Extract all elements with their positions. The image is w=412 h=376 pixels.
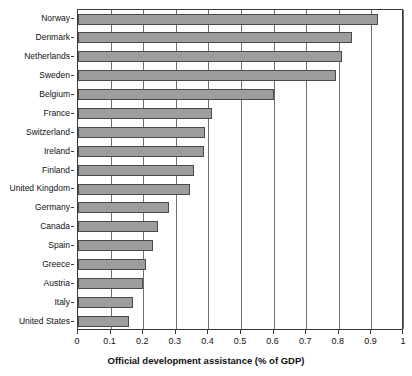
bars-layer (78, 10, 402, 329)
x-tick-label: 0.6 (266, 336, 279, 347)
category-label: Finland (0, 165, 70, 175)
bar (78, 108, 212, 119)
category-label: Ireland (0, 146, 70, 156)
x-tick-label: 0.4 (201, 336, 214, 347)
category-tick (71, 37, 74, 38)
bar (78, 165, 194, 176)
x-tick-label: 0.5 (234, 336, 247, 347)
x-tick-label: 0.2 (136, 336, 149, 347)
x-tick (402, 330, 403, 334)
x-tick (370, 330, 371, 334)
bar (78, 240, 153, 251)
category-tick (71, 94, 74, 95)
oda-bar-chart: NorwayDenmarkNetherlandsSwedenBelgiumFra… (0, 0, 412, 376)
plot-area (77, 9, 403, 330)
category-label: Italy (0, 297, 70, 307)
category-label: Spain (0, 240, 70, 250)
x-axis-ticks (77, 330, 403, 335)
x-tick (305, 330, 306, 334)
bar (78, 259, 146, 270)
category-label: Belgium (0, 89, 70, 99)
x-tick (77, 330, 78, 334)
x-axis-tick-labels: 00.10.20.30.40.50.60.70.80.91 (0, 336, 412, 350)
category-tick (71, 321, 74, 322)
category-label: Greece (0, 259, 70, 269)
category-tick (71, 170, 74, 171)
bar (78, 202, 169, 213)
bar (78, 14, 378, 25)
category-label: Norway (0, 13, 70, 23)
category-label: Austria (0, 278, 70, 288)
x-tick (175, 330, 176, 334)
category-tick (71, 207, 74, 208)
bar (78, 70, 336, 81)
x-tick (338, 330, 339, 334)
category-tick (71, 188, 74, 189)
category-tick (71, 56, 74, 57)
bar (78, 297, 133, 308)
bar (78, 89, 274, 100)
category-label: Germany (0, 202, 70, 212)
category-tick (71, 18, 74, 19)
x-tick-label: 0.8 (332, 336, 345, 347)
category-tick (71, 283, 74, 284)
x-tick-label: 0.1 (103, 336, 116, 347)
bar (78, 316, 129, 327)
bar (78, 278, 143, 289)
category-tick (71, 245, 74, 246)
category-tick (71, 302, 74, 303)
x-tick (240, 330, 241, 334)
x-axis-title: Official development assistance (% of GD… (0, 355, 412, 366)
category-tick (71, 75, 74, 76)
bar (78, 32, 352, 43)
category-tick (71, 132, 74, 133)
x-tick-label: 0 (74, 336, 79, 347)
x-tick-label: 0.7 (299, 336, 312, 347)
bar (78, 127, 205, 138)
category-label: Switzerland (0, 127, 70, 137)
category-label: Sweden (0, 70, 70, 80)
category-label: Netherlands (0, 51, 70, 61)
bar (78, 221, 158, 232)
bar (78, 184, 190, 195)
category-label: Canada (0, 221, 70, 231)
bar (78, 51, 342, 62)
category-axis: NorwayDenmarkNetherlandsSwedenBelgiumFra… (0, 9, 74, 330)
x-tick (207, 330, 208, 334)
category-label: United States (0, 316, 70, 326)
x-tick (273, 330, 274, 334)
category-label: Denmark (0, 32, 70, 42)
x-tick (110, 330, 111, 334)
category-label: France (0, 108, 70, 118)
category-tick (71, 113, 74, 114)
x-tick-label: 0.9 (364, 336, 377, 347)
bar (78, 146, 204, 157)
x-tick-label: 0.3 (169, 336, 182, 347)
category-tick (71, 151, 74, 152)
x-tick (142, 330, 143, 334)
x-tick-label: 1 (400, 336, 405, 347)
category-label: United Kingdom (0, 183, 70, 193)
category-tick (71, 226, 74, 227)
category-tick (71, 264, 74, 265)
gridline (403, 10, 404, 329)
